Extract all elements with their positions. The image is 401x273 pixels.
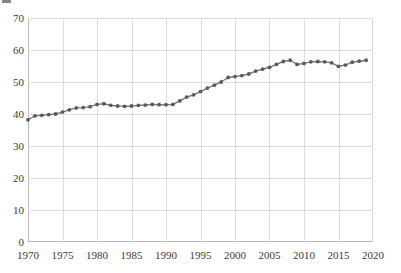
- data-point-marker: [47, 113, 51, 117]
- x-axis-tick-label: 2020: [362, 250, 384, 261]
- plot-area: [28, 18, 373, 242]
- x-axis-tick-label: 2010: [293, 250, 315, 261]
- line-chart: 010203040506070 197019751980198519901995…: [0, 0, 401, 273]
- data-point-marker: [81, 106, 85, 110]
- data-point-marker: [302, 62, 306, 66]
- x-axis-tick-label: 1970: [17, 250, 39, 261]
- y-axis-tick-label: 10: [13, 205, 24, 216]
- series-markers: [26, 58, 368, 121]
- data-point-marker: [240, 74, 244, 78]
- data-point-marker: [40, 113, 44, 117]
- data-point-marker: [68, 108, 72, 112]
- data-point-marker: [330, 61, 334, 65]
- x-axis-tick-label: 1980: [86, 250, 108, 261]
- data-point-marker: [88, 105, 92, 109]
- data-point-marker: [316, 60, 320, 64]
- data-point-marker: [143, 103, 147, 107]
- x-axis-tick-label: 1985: [121, 250, 143, 261]
- x-axis-tick-label: 1995: [190, 250, 212, 261]
- data-point-marker: [26, 118, 30, 122]
- data-point-marker: [309, 60, 313, 64]
- data-point-marker: [357, 59, 361, 63]
- series-line: [28, 60, 366, 120]
- data-point-marker: [206, 86, 210, 90]
- data-point-marker: [219, 80, 223, 84]
- data-point-marker: [74, 106, 78, 110]
- data-point-marker: [123, 104, 127, 108]
- x-axis-tick-label: 2000: [224, 250, 246, 261]
- data-point-marker: [199, 90, 203, 94]
- data-point-marker: [185, 95, 189, 99]
- data-point-marker: [226, 76, 230, 80]
- data-point-marker: [233, 75, 237, 79]
- data-point-marker: [61, 110, 65, 114]
- data-point-marker: [344, 63, 348, 67]
- y-axis-tick-label: 0: [19, 237, 25, 248]
- data-point-marker: [102, 102, 106, 106]
- x-axis-tick-label: 1975: [52, 250, 74, 261]
- data-point-marker: [116, 104, 120, 108]
- data-point-marker: [192, 93, 196, 97]
- data-point-marker: [150, 103, 154, 107]
- y-axis-tick-label: 60: [13, 45, 24, 56]
- y-axis-tick-labels: 010203040506070: [0, 0, 24, 273]
- y-axis-tick-label: 30: [13, 141, 24, 152]
- y-axis-tick-label: 40: [13, 109, 24, 120]
- data-point-marker: [288, 58, 292, 62]
- data-point-marker: [137, 103, 141, 107]
- y-axis-tick-label: 50: [13, 77, 24, 88]
- data-point-marker: [268, 65, 272, 69]
- data-point-marker: [337, 64, 341, 68]
- x-axis-tick-label: 2005: [259, 250, 281, 261]
- data-point-marker: [95, 103, 99, 107]
- data-point-marker: [364, 58, 368, 62]
- data-point-marker: [261, 67, 265, 71]
- y-axis-tick-label: 70: [13, 13, 24, 24]
- data-point-marker: [54, 112, 58, 116]
- y-axis-tick-label: 20: [13, 173, 24, 184]
- data-point-marker: [254, 69, 258, 73]
- data-point-marker: [247, 72, 251, 76]
- data-point-marker: [275, 63, 279, 67]
- data-point-marker: [323, 60, 327, 64]
- data-point-marker: [164, 103, 168, 107]
- data-point-marker: [212, 83, 216, 87]
- data-point-marker: [350, 60, 354, 64]
- data-point-marker: [178, 99, 182, 103]
- data-point-marker: [295, 63, 299, 67]
- data-point-marker: [171, 103, 175, 107]
- data-series-layer: [28, 18, 373, 242]
- x-axis-tick-label: 1990: [155, 250, 177, 261]
- data-point-marker: [33, 114, 37, 118]
- data-point-marker: [130, 104, 134, 108]
- data-point-marker: [157, 103, 161, 107]
- data-point-marker: [109, 103, 113, 107]
- x-axis-tick-labels: 1970197519801985199019952000200520102015…: [0, 250, 401, 266]
- x-axis-tick-label: 2015: [328, 250, 350, 261]
- data-point-marker: [281, 60, 285, 64]
